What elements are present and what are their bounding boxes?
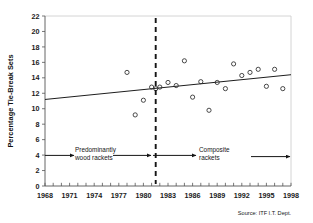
y-tick-label: 22: [32, 12, 40, 21]
y-tick-label: 0: [36, 182, 40, 191]
x-axis-tick-labels: 1968197119741977198019831986198919921995…: [37, 191, 299, 200]
chart-figure: 0246810121416182022 19681971197419771980…: [0, 0, 313, 223]
data-point: [182, 59, 186, 63]
x-tick-label: 1977: [111, 191, 127, 200]
source-note: Source: ITF I.T. Dept.: [238, 210, 292, 216]
data-point: [273, 67, 277, 71]
data-point: [191, 95, 195, 99]
y-axis-ticks: 0246810121416182022: [32, 12, 46, 191]
y-axis-title: Percentage Tie-Break Sets: [6, 54, 15, 147]
x-tick-label: 1974: [86, 191, 102, 200]
x-tick-label: 1998: [283, 191, 299, 200]
wood-era-label-line2: wood rackets: [74, 154, 113, 161]
trend-line: [45, 75, 291, 100]
data-point: [133, 113, 137, 117]
data-point: [232, 62, 236, 66]
y-tick-label: 12: [32, 89, 40, 98]
data-point-series: [125, 59, 285, 117]
y-tick-label: 14: [32, 73, 40, 82]
data-point: [240, 73, 244, 77]
y-tick-label: 6: [36, 135, 40, 144]
y-tick-label: 10: [32, 104, 40, 113]
data-point: [223, 87, 227, 91]
y-tick-label: 2: [36, 166, 40, 175]
composite-era-label-line1: Composite: [199, 146, 230, 154]
composite-era-label-line2: rackets: [199, 154, 220, 161]
x-tick-label: 1968: [37, 191, 53, 200]
y-tick-label: 18: [32, 43, 40, 52]
tie-break-sets-scatter-chart: 0246810121416182022 19681971197419771980…: [0, 0, 313, 223]
x-tick-label: 1986: [185, 191, 201, 200]
y-tick-label: 20: [32, 27, 40, 36]
data-point: [158, 85, 162, 89]
x-tick-label: 1971: [62, 191, 78, 200]
x-axis-minor-ticks: [45, 183, 291, 186]
data-point: [256, 67, 260, 71]
x-tick-label: 1983: [160, 191, 176, 200]
data-point: [141, 98, 145, 102]
data-point: [174, 83, 178, 87]
x-tick-label: 1995: [258, 191, 274, 200]
x-tick-label: 1992: [234, 191, 250, 200]
data-point: [207, 108, 211, 112]
y-tick-label: 8: [36, 120, 40, 129]
wood-era-label-line1: Predominantly: [75, 146, 117, 154]
data-point: [166, 80, 170, 84]
data-point: [248, 70, 252, 74]
x-tick-label: 1980: [135, 191, 151, 200]
y-tick-label: 16: [32, 58, 40, 67]
era-annotation-labels: Predominantly wood rackets Composite rac…: [74, 146, 230, 161]
x-tick-label: 1989: [209, 191, 225, 200]
data-point: [264, 84, 268, 88]
data-point: [199, 80, 203, 84]
y-tick-label: 4: [36, 151, 40, 160]
data-point: [281, 87, 285, 91]
data-point: [125, 70, 129, 74]
